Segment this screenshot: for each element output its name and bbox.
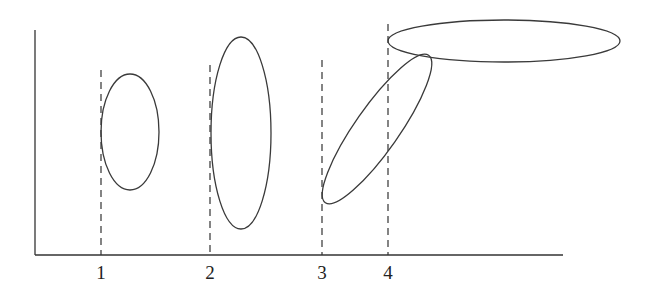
tick-label-3: 3: [317, 262, 327, 283]
tick-label-1: 1: [96, 262, 106, 283]
ellipse-3-tilted: [307, 43, 446, 216]
tick-labels: 1 2 3 4: [96, 262, 393, 283]
ellipses-group: [101, 20, 620, 229]
dashed-guides: [101, 24, 388, 255]
diagram-svg: 1 2 3 4: [0, 0, 651, 291]
ellipse-2: [211, 37, 271, 229]
tick-label-2: 2: [205, 262, 215, 283]
diagram-canvas: 1 2 3 4: [0, 0, 651, 291]
tick-label-4: 4: [383, 262, 393, 283]
ellipse-4-horizontal: [388, 20, 620, 62]
ellipse-1: [101, 74, 159, 190]
